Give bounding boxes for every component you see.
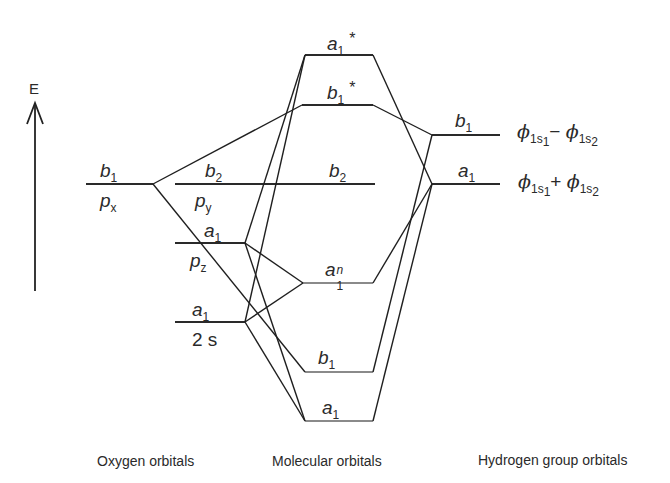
o-pz-label: pz <box>190 251 207 274</box>
mo-a1n-label: an1 <box>325 260 346 279</box>
mo-b1-star-label: b1* <box>327 80 356 106</box>
correlation-lines <box>153 55 432 421</box>
h-a1-label: a1 <box>458 161 475 184</box>
caption-hydrogen: Hydrogen group orbitals <box>478 452 627 468</box>
mo-b2-label: b2 <box>329 161 346 184</box>
energy-arrow-icon <box>27 103 43 291</box>
o-a1-pz-label: a1 <box>204 221 221 244</box>
h-b1-combination: ϕ1s1− ϕ1s2 <box>517 122 598 148</box>
mo-a1-label: a1 <box>322 398 339 421</box>
o-py-label: py <box>195 191 212 214</box>
o-2s-label: 2 s <box>192 330 217 349</box>
caption-oxygen: Oxygen orbitals <box>97 453 194 469</box>
o-a1-2s-label: a1 <box>192 300 209 323</box>
caption-molecular: Molecular orbitals <box>272 453 382 469</box>
o-b2-label: b2 <box>205 161 222 184</box>
h-b1-label: b1 <box>455 111 472 134</box>
o-px-label: px <box>100 191 117 214</box>
energy-axis-label: E <box>29 80 39 97</box>
mo-b1-label: b1 <box>318 348 335 371</box>
o-b1-label: b1 <box>100 161 117 184</box>
h-a1-combination: ϕ1s1+ ϕ1s2 <box>518 172 599 198</box>
mo-a1-star-label: a1* <box>327 31 356 57</box>
